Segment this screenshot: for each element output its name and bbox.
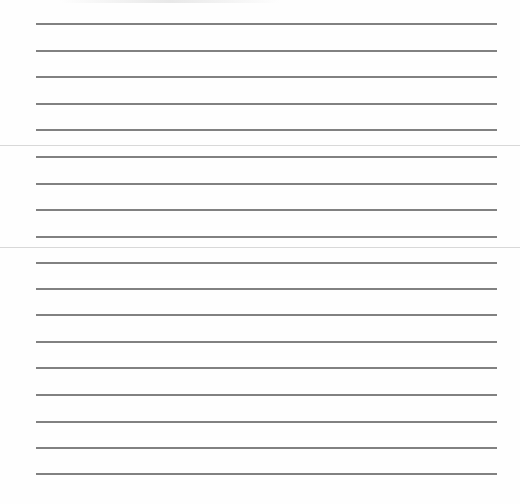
writing-line bbox=[36, 236, 497, 238]
writing-line bbox=[36, 421, 497, 423]
writing-line bbox=[36, 262, 497, 264]
writing-line bbox=[36, 341, 497, 343]
writing-line bbox=[36, 367, 497, 369]
writing-line bbox=[36, 156, 497, 158]
writing-line bbox=[36, 183, 497, 185]
writing-line bbox=[36, 288, 497, 290]
section-divider bbox=[0, 145, 520, 146]
writing-line bbox=[36, 209, 497, 211]
writing-line bbox=[36, 473, 497, 475]
writing-line bbox=[36, 23, 497, 25]
writing-line bbox=[36, 50, 497, 52]
writing-line bbox=[36, 76, 497, 78]
writing-line bbox=[36, 103, 497, 105]
writing-line bbox=[36, 394, 497, 396]
section-divider bbox=[0, 247, 520, 248]
ruled-page bbox=[0, 0, 520, 504]
writing-line bbox=[36, 447, 497, 449]
writing-line bbox=[36, 314, 497, 316]
cut-off-text-remnant bbox=[60, 0, 280, 3]
writing-line bbox=[36, 129, 497, 131]
